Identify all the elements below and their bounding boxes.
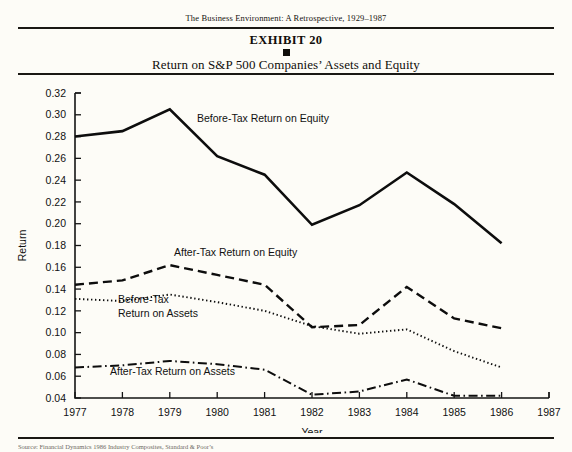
line-chart: 0.040.060.080.100.120.140.160.180.200.22…	[0, 78, 572, 433]
y-tick-label: 0.18	[46, 239, 67, 251]
y-tick-label: 0.10	[46, 326, 67, 338]
y-tick-label: 0.26	[46, 152, 67, 164]
exhibit-number: EXHIBIT 20	[0, 33, 572, 48]
y-tick-label: 0.22	[46, 196, 67, 208]
exhibit-title: Return on S&P 500 Companies’ Assets and …	[0, 57, 572, 73]
x-tick-label: 1977	[63, 406, 87, 418]
y-tick-label: 0.24	[46, 174, 67, 186]
series-annotation: Return on Assets	[118, 307, 198, 319]
x-tick-label: 1985	[443, 406, 467, 418]
y-tick-label: 0.14	[46, 283, 67, 295]
y-tick-label: 0.20	[46, 217, 67, 229]
y-tick-label: 0.08	[46, 348, 67, 360]
x-tick-label: 1980	[206, 406, 230, 418]
running-head: The Business Environment: A Retrospectiv…	[0, 13, 572, 23]
series-annotation: After-Tax Return on Assets	[110, 365, 235, 377]
y-tick-label: 0.04	[46, 392, 67, 404]
series-annotation: After-Tax Return on Equity	[174, 246, 298, 258]
x-tick-label: 1982	[300, 406, 324, 418]
x-tick-label: 1979	[158, 406, 182, 418]
header-rule-top	[18, 27, 554, 29]
y-tick-label: 0.32	[46, 87, 67, 99]
exhibit-page: The Business Environment: A Retrospectiv…	[0, 0, 572, 452]
source-note: Source: Financial Dynamics 1986 Industry…	[18, 443, 418, 450]
x-tick-label: 1983	[348, 406, 372, 418]
footer-rule	[18, 437, 554, 439]
chart-svg: 0.040.060.080.100.120.140.160.180.200.22…	[0, 78, 572, 433]
x-tick-label: 1987	[537, 406, 561, 418]
x-tick-label: 1981	[253, 406, 277, 418]
series-line-before-tax-return-on-equity	[75, 109, 502, 243]
y-tick-label: 0.12	[46, 305, 67, 317]
y-tick-label: 0.28	[46, 130, 67, 142]
header-rule-bottom	[18, 73, 554, 75]
x-axis-title: Year	[301, 426, 323, 433]
y-tick-label: 0.16	[46, 261, 67, 273]
y-axis-title: Return	[16, 230, 28, 262]
x-tick-label: 1986	[490, 406, 514, 418]
x-tick-label: 1984	[395, 406, 419, 418]
series-annotation: Before-Tax Return on Equity	[197, 112, 330, 124]
y-tick-label: 0.06	[46, 370, 67, 382]
series-annotation: Before-Tax	[118, 293, 170, 305]
y-tick-label: 0.30	[46, 108, 67, 120]
axis-lines	[75, 93, 549, 398]
x-tick-label: 1978	[111, 406, 135, 418]
